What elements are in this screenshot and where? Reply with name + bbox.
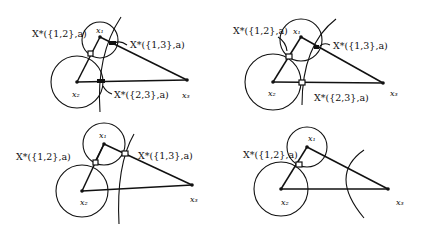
label-x13: X*({1,3},a) (130, 39, 185, 50)
label-x3: x₃ (390, 89, 398, 98)
edge-x2-x3 (273, 82, 383, 83)
point-12 (296, 162, 302, 167)
edge-x1-x2 (77, 37, 100, 82)
point-12 (286, 54, 292, 59)
panel-bottom-left: x₁ x₂ x₃ X*({1,2},a) X*({1,3},a) (16, 123, 198, 224)
label-x23: X*({2,3},a) (314, 92, 369, 103)
label-x13: X*({1,3},a) (333, 40, 388, 51)
panel-top-right: x₁ x₂ x₃ X*({1,2},a) X*({1,3},a) X*({2,3… (233, 19, 398, 110)
arc-x3 (119, 134, 134, 224)
label-x13: X*({1,3},a) (138, 150, 193, 161)
point-12 (93, 160, 98, 165)
point-12 (88, 51, 93, 56)
vertex-x3 (185, 78, 189, 82)
point-23 (299, 80, 305, 85)
region-23 (97, 79, 105, 83)
label-x2: x₂ (80, 198, 88, 207)
label-x2: x₂ (281, 198, 289, 207)
panel-bottom-right: x₁ x₂ x₃ X*({1,2},a) (243, 127, 404, 218)
label-x3: x₃ (190, 195, 198, 204)
vertex-x3 (386, 187, 390, 191)
label-x12: X*({1,2},a) (32, 28, 87, 39)
label-x12: X*({1,2},a) (233, 25, 288, 36)
point-13 (122, 151, 128, 156)
label-x2: x₂ (72, 90, 80, 99)
panel-top-left: x₁ x₂ x₃ X*({1,2},a) X*({1,3},a) X*({2,3… (32, 17, 190, 112)
edge-x2-x3 (77, 80, 187, 82)
label-x23: X*({2,3},a) (114, 89, 169, 100)
edge-x1-x3 (307, 147, 388, 189)
vertex-x3 (381, 81, 385, 85)
label-x1: x₁ (308, 134, 316, 143)
edge-x1-p12 (95, 144, 104, 162)
label-x1: x₁ (96, 26, 104, 35)
vertex-x1 (102, 142, 106, 146)
diagram-canvas: x₁ x₂ x₃ X*({1,2},a) X*({1,3},a) X*({2,3… (0, 0, 425, 231)
point-13 (314, 45, 319, 49)
vertex-x1 (98, 35, 102, 39)
vertex-x2 (279, 187, 283, 191)
pointer-23 (103, 86, 112, 94)
vertex-x1 (305, 145, 309, 149)
label-x1: x₁ (99, 131, 107, 140)
arc-x3 (346, 150, 364, 218)
vertex-x3 (190, 183, 194, 187)
vertex-x2 (271, 80, 275, 84)
vertex-x2 (80, 189, 84, 193)
vertex-x2 (75, 80, 79, 84)
label-x12: X*({1,2},a) (243, 149, 298, 160)
label-x3: x₃ (182, 91, 190, 100)
region-13 (109, 41, 116, 45)
label-x12: X*({1,2},a) (16, 151, 71, 162)
label-x1: x₁ (293, 27, 301, 36)
edge-x2-x3 (82, 185, 192, 191)
label-x3: x₃ (396, 198, 404, 207)
label-x2: x₂ (268, 89, 276, 98)
